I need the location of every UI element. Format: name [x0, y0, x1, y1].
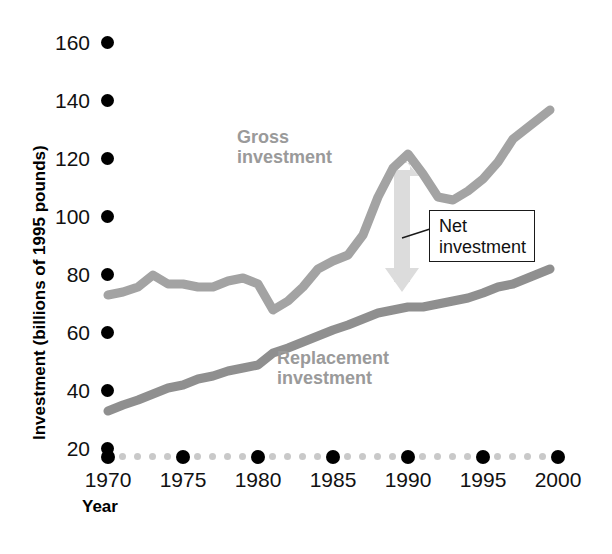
x-axis-dot-minor — [464, 453, 471, 460]
x-axis-dot-minor — [344, 453, 351, 460]
x-axis-dot-minor — [299, 453, 306, 460]
x-tick-label-1980: 1980 — [223, 468, 293, 492]
x-axis-dot-minor — [359, 453, 366, 460]
x-axis-dot-1995 — [476, 450, 490, 464]
x-axis-dot-minor — [314, 453, 321, 460]
x-axis-dot-minor — [509, 453, 516, 460]
replacement-investment-line — [108, 269, 550, 411]
x-axis-dot-minor — [269, 453, 276, 460]
x-axis-dot-minor — [524, 453, 531, 460]
x-tick-label-1985: 1985 — [298, 468, 368, 492]
x-axis-dot-minor — [419, 453, 426, 460]
x-axis-dot-minor — [194, 453, 201, 460]
gross-investment-label: Gross investment — [237, 127, 332, 167]
x-tick-label-1990: 1990 — [373, 468, 443, 492]
x-axis-dot-1975 — [176, 450, 190, 464]
x-axis-dot-minor — [449, 453, 456, 460]
x-axis-dot-minor — [149, 453, 156, 460]
x-tick-label-1970: 1970 — [73, 468, 143, 492]
x-axis-dot-minor — [134, 453, 141, 460]
x-axis-dot-minor — [434, 453, 441, 460]
x-tick-label-1995: 1995 — [448, 468, 518, 492]
net-investment-callout: Net investment — [429, 210, 535, 262]
x-axis-dot-minor — [164, 453, 171, 460]
x-tick-label-2000: 2000 — [523, 468, 593, 492]
x-axis-title: Year — [82, 497, 118, 517]
x-axis-dot-1970 — [101, 450, 115, 464]
x-axis-dot-1980 — [251, 450, 265, 464]
x-axis-dot-1985 — [326, 450, 340, 464]
x-axis-dot-minor — [374, 453, 381, 460]
x-axis-dot-minor — [284, 453, 291, 460]
investment-chart: Investment (billions of 1995 pounds) 160… — [0, 0, 612, 554]
x-axis-dot-minor — [209, 453, 216, 460]
x-axis-dot-1990 — [401, 450, 415, 464]
x-axis-dot-minor — [539, 453, 546, 460]
x-axis-dot-minor — [494, 453, 501, 460]
x-axis-dot-minor — [119, 453, 126, 460]
x-axis-dot-2000 — [551, 450, 565, 464]
x-tick-label-1975: 1975 — [148, 468, 218, 492]
replacement-investment-label: Replacement investment — [277, 348, 389, 388]
x-axis-dot-minor — [239, 453, 246, 460]
x-axis-dot-minor — [224, 453, 231, 460]
x-axis-dot-minor — [389, 453, 396, 460]
